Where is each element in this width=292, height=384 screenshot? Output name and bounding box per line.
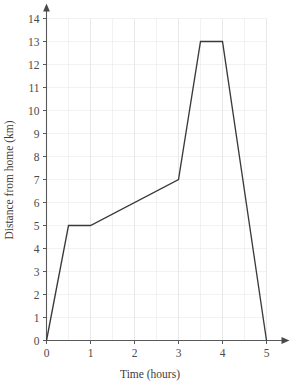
chart-container: 01234567891011121314012345 Time (hours) … (0, 0, 292, 384)
y-tick-label: 0 (34, 335, 40, 347)
y-tick-label: 7 (34, 174, 40, 186)
x-tick-label: 1 (88, 347, 94, 359)
y-tick-label: 3 (34, 266, 40, 278)
y-tick-label: 5 (34, 220, 40, 232)
x-tick-label: 3 (176, 347, 182, 359)
y-tick-label: 14 (28, 13, 40, 25)
y-tick-label: 4 (34, 243, 40, 255)
y-tick-label: 1 (34, 312, 40, 324)
chart-background (0, 0, 292, 384)
x-tick-label: 4 (220, 347, 226, 359)
x-tick-label: 2 (132, 347, 138, 359)
y-tick-label: 6 (34, 197, 40, 209)
y-tick-label: 12 (28, 59, 40, 71)
x-tick-label: 0 (44, 347, 50, 359)
x-tick-label: 5 (264, 347, 270, 359)
y-tick-label: 2 (34, 289, 40, 301)
y-tick-label: 11 (28, 82, 39, 94)
y-tick-label: 8 (34, 151, 40, 163)
y-tick-label: 10 (28, 105, 40, 117)
y-axis-title: Distance from home (km) (3, 120, 16, 239)
y-tick-label: 9 (34, 128, 40, 140)
y-tick-label: 13 (28, 36, 40, 48)
line-chart: 01234567891011121314012345 Time (hours) … (0, 0, 292, 384)
x-axis-title: Time (hours) (120, 368, 180, 381)
